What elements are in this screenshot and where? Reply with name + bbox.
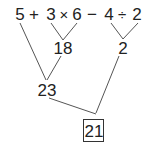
line-3-to-18 [51, 23, 63, 40]
operator-plus: + [29, 6, 39, 23]
result-21: 21 [85, 123, 104, 140]
product-18: 18 [54, 40, 73, 57]
line-18-to-23 [47, 56, 61, 80]
operand-2: 2 [132, 6, 141, 23]
operand-6: 6 [72, 6, 81, 23]
operand-3: 3 [46, 6, 55, 23]
operand-4: 4 [104, 6, 113, 23]
operand-5: 5 [15, 6, 24, 23]
quotient-2: 2 [118, 40, 127, 57]
operator-times: × [60, 6, 69, 23]
line-6-to-18 [63, 23, 77, 40]
operator-divide: ÷ [118, 6, 126, 23]
line-5-to-23 [20, 23, 46, 80]
line-2-to-2 [123, 23, 138, 39]
sum-23: 23 [38, 82, 57, 99]
line-4-to-2 [111, 23, 123, 39]
line-23-to-21 [49, 98, 96, 114]
operator-minus: − [87, 6, 97, 23]
line-2-to-21 [96, 56, 119, 113]
